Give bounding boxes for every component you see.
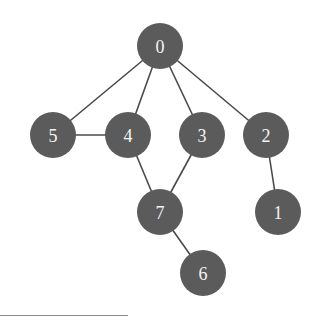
node-5: 5 <box>30 112 76 158</box>
node-7: 7 <box>137 189 183 235</box>
node-label: 7 <box>156 203 165 223</box>
edges-group <box>53 46 278 273</box>
node-1: 1 <box>255 189 301 235</box>
node-label: 3 <box>198 126 207 146</box>
node-label: 5 <box>49 126 58 146</box>
node-label: 0 <box>156 37 165 57</box>
node-6: 6 <box>180 250 226 296</box>
node-0: 0 <box>137 23 183 69</box>
node-3: 3 <box>179 112 225 158</box>
nodes-group: 01234567 <box>30 23 301 296</box>
graph-diagram: 01234567 <box>0 0 322 322</box>
node-label: 6 <box>199 264 208 284</box>
node-4: 4 <box>105 112 151 158</box>
node-label: 1 <box>274 203 283 223</box>
node-label: 4 <box>124 126 133 146</box>
footer-divider <box>0 315 128 316</box>
node-2: 2 <box>243 112 289 158</box>
node-label: 2 <box>262 126 271 146</box>
